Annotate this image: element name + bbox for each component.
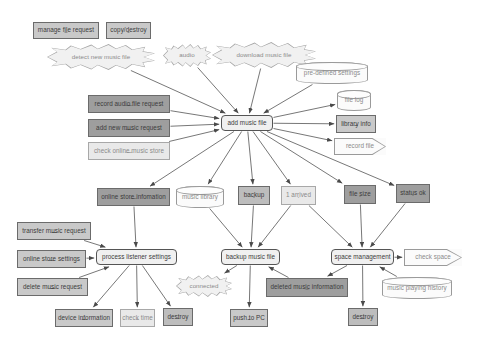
node-label: add music file xyxy=(225,120,268,127)
node-process-listener-settings[interactable]: process listener settings xyxy=(96,249,177,265)
node-status-ok[interactable]: status ok xyxy=(396,184,430,203)
node-label: delete music request xyxy=(21,284,84,291)
node-label: add new music request xyxy=(94,125,164,132)
edge-add-music-file-to-file-size xyxy=(260,132,342,184)
edge-add-music-file-to-file-log xyxy=(274,104,336,117)
node-library-info[interactable]: library info xyxy=(336,115,376,133)
edge-delete-music-request-to-process-listener-settings xyxy=(79,267,109,278)
node-music-playing-history[interactable]: music playing history xyxy=(382,277,452,299)
node-label: record file xyxy=(344,143,376,150)
node-label: deleted music information xyxy=(269,284,346,291)
node-record-file[interactable]: record file xyxy=(334,138,386,155)
edge-process-listener-settings-to-device-information xyxy=(93,266,129,308)
node-check-time[interactable]: check time xyxy=(120,309,155,327)
node-add-new-music-request[interactable]: add new music request xyxy=(88,119,170,137)
edge-backup-to-backup-music-file xyxy=(251,206,253,248)
edge-deleted-music-information-to-backup-music-file xyxy=(269,267,289,278)
node-audio[interactable]: audio xyxy=(163,44,211,67)
node-label: space management xyxy=(332,254,392,261)
edge-process-listener-settings-to-check-time xyxy=(137,266,138,308)
diagram-canvas: manage file requestcopy/destroydetect ne… xyxy=(0,0,484,348)
node-transfer-music-request[interactable]: transfer music request xyxy=(17,222,91,240)
node-1-arrived[interactable]: 1 arrived xyxy=(281,186,316,205)
node-label: destroy xyxy=(166,314,191,321)
node-label: backup music file xyxy=(224,254,277,261)
node-deleted-music-information[interactable]: deleted music information xyxy=(266,278,348,297)
node-label: backup xyxy=(242,192,267,199)
node-label: status ok xyxy=(398,190,428,197)
node-label: audio xyxy=(177,52,196,59)
edge-backup-music-file-to-connected xyxy=(225,266,237,274)
edge-add-new-music-request-to-add-music-file xyxy=(171,124,220,126)
node-file-log[interactable]: file log xyxy=(337,90,371,111)
node-space-management[interactable]: space management xyxy=(331,249,394,265)
edge-audio-to-add-music-file xyxy=(198,68,239,114)
node-destroy-left[interactable]: destroy xyxy=(163,308,193,326)
node-label: file size xyxy=(347,191,372,198)
node-label: 1 arrived xyxy=(284,192,313,199)
node-music-library[interactable]: music library xyxy=(176,186,224,208)
node-backup[interactable]: backup xyxy=(238,186,270,205)
node-delete-music-request[interactable]: delete music request xyxy=(17,278,88,296)
edge-backup-music-file-to-push-to-pc xyxy=(249,266,250,308)
edge-add-music-file-to-music-library xyxy=(208,132,241,185)
edge-add-music-file-to-record-file xyxy=(274,129,333,141)
node-label: check time xyxy=(120,315,155,322)
node-check-space[interactable]: check space xyxy=(404,249,462,266)
edge-pre-defined-settings-to-add-music-file xyxy=(264,85,313,114)
node-add-music-file[interactable]: add music file xyxy=(221,115,273,131)
edge-music-library-to-backup-music-file xyxy=(210,209,243,248)
edge-space-management-to-deleted-music-information xyxy=(328,266,347,277)
edge-online-store-information-to-process-listener-settings xyxy=(134,207,136,248)
node-label: online store infomation xyxy=(99,194,168,201)
edge-download-music-file-to-add-music-file xyxy=(249,69,260,114)
node-label: library info xyxy=(339,121,373,128)
edge-status-ok-to-space-management xyxy=(370,204,405,248)
node-check-online-music-store[interactable]: check online music store xyxy=(88,142,170,160)
node-label: download music file xyxy=(235,52,294,59)
node-label: connected xyxy=(187,283,220,290)
node-label: copy/destroy xyxy=(108,27,148,34)
edge-1-arrived-to-space-management xyxy=(309,206,352,248)
node-label: transfer music request xyxy=(20,228,87,235)
node-label: check online music store xyxy=(92,148,166,155)
node-backup-music-file[interactable]: backup music file xyxy=(221,249,280,265)
node-label: process listener settings xyxy=(100,254,173,261)
node-device-information[interactable]: device information xyxy=(55,309,113,327)
node-destroy-right[interactable]: destroy xyxy=(348,308,378,326)
node-label: music library xyxy=(180,194,220,201)
node-label: online store settings xyxy=(21,256,82,263)
node-record-audio-file-request[interactable]: record audio file request xyxy=(88,95,170,113)
edge-record-audio-file-request-to-add-music-file xyxy=(171,111,220,119)
edge-process-listener-settings-to-destroy-left xyxy=(142,266,170,307)
node-connected[interactable]: connected xyxy=(176,275,232,297)
node-label: detect new music file xyxy=(70,54,132,61)
node-label: manage file request xyxy=(36,27,96,34)
node-online-store-settings[interactable]: online store settings xyxy=(17,250,86,268)
node-label: music playing history xyxy=(385,285,449,292)
node-file-size[interactable]: file size xyxy=(344,185,376,204)
node-online-store-information[interactable]: online store infomation xyxy=(97,188,170,206)
edge-add-music-file-to-library-info xyxy=(274,123,335,124)
node-label: check space xyxy=(413,254,453,261)
node-copy-destroy[interactable]: copy/destroy xyxy=(106,22,151,39)
edge-1-arrived-to-backup-music-file xyxy=(258,206,291,248)
edge-add-music-file-to-1-arrived xyxy=(253,132,290,185)
node-label: file log xyxy=(343,97,366,104)
edge-check-online-music-store-to-add-music-file xyxy=(169,130,219,142)
node-pre-defined-settings[interactable]: pre-defined settings xyxy=(296,62,368,84)
node-label: destroy xyxy=(351,314,376,321)
edge-add-music-file-to-backup xyxy=(248,132,253,185)
node-label: pre-defined settings xyxy=(302,70,362,77)
node-label: push to PC xyxy=(231,315,267,322)
edge-transfer-music-request-to-process-listener-settings xyxy=(84,241,105,248)
node-detect-new-music-file[interactable]: detect new music file xyxy=(47,44,155,70)
node-label: record audio file request xyxy=(93,101,166,108)
node-manage-file-request[interactable]: manage file request xyxy=(33,22,99,39)
node-push-to-pc[interactable]: push to PC xyxy=(230,309,268,327)
edge-file-size-to-space-management xyxy=(360,205,362,248)
edge-music-playing-history-to-space-management xyxy=(380,267,397,277)
node-label: device information xyxy=(56,315,112,322)
